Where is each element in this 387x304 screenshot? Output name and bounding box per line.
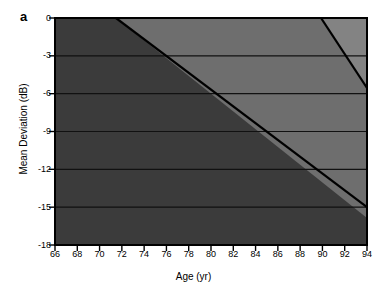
- x-tick-label-72: 72: [117, 250, 127, 259]
- x-tick-label-94: 94: [362, 250, 372, 259]
- x-axis-title: Age (yr): [0, 272, 387, 282]
- x-tick-label-76: 76: [161, 250, 171, 259]
- x-tick-label-92: 92: [340, 250, 350, 259]
- x-tick-label-84: 84: [251, 250, 261, 259]
- x-tick-label-82: 82: [228, 250, 238, 259]
- figure-panel-a: a: [0, 0, 387, 304]
- y-axis-title: Mean Deviation (dB): [19, 39, 29, 219]
- x-tick-label-74: 74: [139, 250, 149, 259]
- x-tick-label-66: 66: [50, 250, 60, 259]
- x-tick-label-70: 70: [95, 250, 105, 259]
- x-tick-label-90: 90: [317, 250, 327, 259]
- x-tick-label-78: 78: [184, 250, 194, 259]
- x-tick-label-86: 86: [273, 250, 283, 259]
- x-tick-label-80: 80: [206, 250, 216, 259]
- x-tick-label-68: 68: [72, 250, 82, 259]
- x-tick-label-88: 88: [295, 250, 305, 259]
- x-axis-tick-labels: 66 68 70 72 74 76 78 80 82 84 86 88 90 9…: [0, 0, 387, 304]
